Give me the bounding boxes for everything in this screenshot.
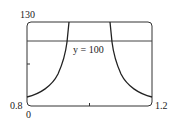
hline-annotation: y = 100	[73, 45, 104, 55]
y-min-label: 0	[26, 110, 31, 120]
curve-left-branch	[27, 22, 69, 97]
x-min-label: 0.8	[10, 101, 23, 111]
y-max-label: 130	[20, 10, 35, 20]
plot-frame	[27, 22, 152, 106]
curve-right-branch	[110, 22, 152, 97]
x-max-label: 1.2	[155, 101, 168, 111]
